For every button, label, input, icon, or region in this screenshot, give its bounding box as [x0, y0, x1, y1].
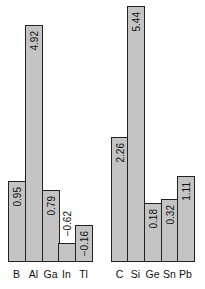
bar-value-label: 0.79	[46, 196, 57, 215]
bar-al: 4.92	[25, 25, 43, 262]
bar-value-label: 0.95	[12, 187, 23, 206]
bar-value-label: 1.11	[181, 182, 192, 201]
bar-value-label: 0.18	[148, 209, 159, 228]
bar-value-label: −0.16	[79, 231, 90, 256]
x-axis-label: Ga	[42, 268, 59, 280]
bar-value-label: 4.92	[29, 31, 40, 50]
bar-pb: 1.11	[177, 176, 195, 262]
x-axis-label: Al	[25, 268, 42, 280]
x-axis-label: Si	[127, 268, 144, 280]
x-axis-label: Sn	[161, 268, 178, 280]
bar-value-label: 5.44	[131, 12, 142, 31]
x-axis-label: In	[58, 268, 75, 280]
bar-tl: −0.16	[75, 225, 93, 262]
bar-value-label: −0.62	[62, 211, 73, 236]
x-axis-label: Pb	[177, 268, 194, 280]
x-axis-label: B	[8, 268, 25, 280]
bar-si: 5.44	[127, 6, 145, 262]
x-axis-label: Tl	[75, 268, 92, 280]
bar-ge: 0.18	[144, 203, 162, 262]
bar-b: 0.95	[8, 181, 26, 262]
bar-value-label: 0.32	[165, 205, 176, 224]
x-axis-label: C	[111, 268, 128, 280]
x-axis-label: Ge	[144, 268, 161, 280]
bar-value-label: 2.26	[115, 143, 126, 162]
bar-in	[58, 243, 76, 262]
